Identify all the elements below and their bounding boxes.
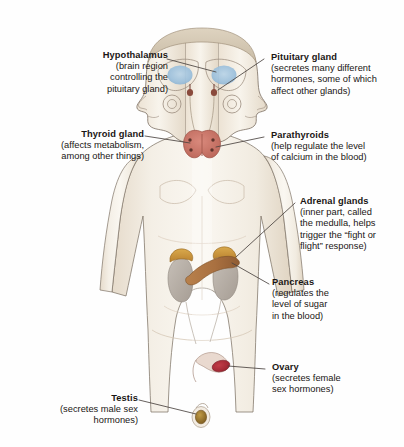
- label-thyroid-gland-heading: Thyroid gland: [4, 129, 144, 140]
- label-pancreas-line-3: in the blood): [272, 311, 376, 322]
- label-pancreas-heading: Pancreas: [272, 277, 376, 288]
- label-pituitary-gland-line-2: hormones, some of which: [271, 74, 403, 85]
- label-hypothalamus-line-1: (brain region: [8, 61, 168, 72]
- thyroid-gland-shape: [184, 130, 221, 158]
- label-thyroid-gland-line-1: (affects metabolism,: [4, 140, 144, 151]
- label-adrenal-glands-line-3: trigger the “fight or: [300, 230, 404, 241]
- label-testis: Testis (secretes male sex hormones): [8, 393, 138, 427]
- label-pituitary-gland-line-1: (secretes many different: [271, 63, 403, 74]
- testis-shape: [195, 410, 206, 424]
- label-thyroid-gland-line-2: among other things): [4, 151, 144, 162]
- label-hypothalamus-line-3: pituitary gland): [8, 84, 168, 95]
- label-adrenal-glands-line-1: (inner part, called: [300, 207, 404, 218]
- hypothalamus-region: [168, 66, 193, 85]
- label-adrenal-glands-line-4: flight” response): [300, 241, 404, 252]
- label-testis-line-2: hormones): [8, 415, 138, 426]
- label-adrenal-glands-line-2: the medulla, helps: [300, 218, 404, 229]
- label-thyroid-gland: Thyroid gland (affects metabolism, among…: [4, 129, 144, 163]
- parathyroid-node: [189, 148, 192, 151]
- hypothalamus-region: [212, 66, 237, 85]
- label-parathyroids: Parathyroids (help regulate the level of…: [271, 130, 403, 164]
- pituitary-gland-node: [187, 89, 193, 96]
- label-testis-line-1: (secretes male sex: [8, 404, 138, 415]
- label-parathyroids-heading: Parathyroids: [271, 130, 403, 141]
- label-pituitary-gland-heading: Pituitary gland: [271, 52, 403, 63]
- label-ovary-line-2: sex hormones): [272, 384, 382, 395]
- endocrine-diagram: Hypothalamus (brain region controlling t…: [0, 0, 404, 447]
- label-hypothalamus: Hypothalamus (brain region controlling t…: [8, 50, 168, 95]
- pituitary-gland-node: [211, 89, 217, 96]
- label-pancreas-line-2: level of sugar: [272, 299, 376, 310]
- label-pancreas-line-1: (regulates the: [272, 288, 376, 299]
- label-adrenal-glands: Adrenal glands (inner part, called the m…: [300, 196, 404, 252]
- label-pituitary-gland-line-3: affect other glands): [271, 86, 403, 97]
- label-parathyroids-line-1: (help regulate the level: [271, 141, 403, 152]
- parathyroid-node: [211, 138, 214, 141]
- label-pancreas: Pancreas (regulates the level of sugar i…: [272, 277, 376, 322]
- label-hypothalamus-line-2: controlling the: [8, 72, 168, 83]
- label-hypothalamus-heading: Hypothalamus: [8, 50, 168, 61]
- label-adrenal-glands-heading: Adrenal glands: [300, 196, 404, 207]
- label-ovary: Ovary (secretes female sex hormones): [272, 362, 382, 396]
- label-pituitary-gland: Pituitary gland (secretes many different…: [271, 52, 403, 97]
- parathyroid-node: [188, 138, 191, 141]
- label-testis-heading: Testis: [8, 393, 138, 404]
- parathyroid-node: [210, 148, 213, 151]
- label-ovary-heading: Ovary: [272, 362, 382, 373]
- label-parathyroids-line-2: of calcium in the blood): [271, 152, 403, 163]
- label-ovary-line-1: (secretes female: [272, 373, 382, 384]
